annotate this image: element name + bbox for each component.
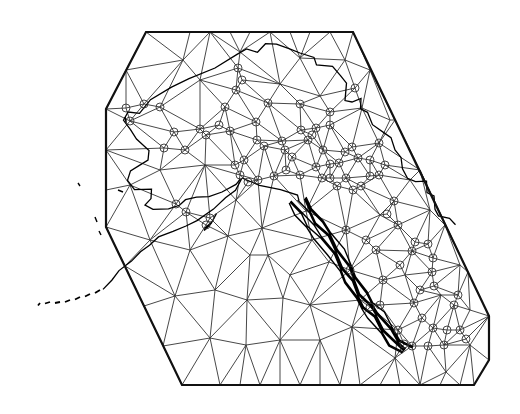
island [78,183,80,186]
map-canvas [0,0,520,414]
map-figure: Triangulated mesh over Alaska [0,0,520,414]
island [95,217,97,222]
coastline-aleutians [38,290,100,306]
island [99,231,101,235]
coastline-peninsula [103,178,242,289]
island [118,190,123,192]
